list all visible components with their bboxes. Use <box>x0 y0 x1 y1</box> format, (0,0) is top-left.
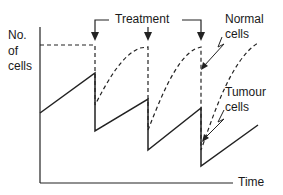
y-axis-label-line1: No. <box>8 28 27 42</box>
arrow-heads <box>91 32 205 41</box>
normal-cells-label-line2: cells <box>225 27 249 41</box>
normal-cells-pointer <box>204 37 224 66</box>
tumour-cells-pointer <box>205 110 224 138</box>
y-axis-label-line3: cells <box>8 59 32 73</box>
x-axis-label: Time <box>238 175 264 189</box>
y-axis-label-line2: of <box>8 44 18 58</box>
tumour-cells-label-line1: Tumour <box>225 85 266 99</box>
normal-cells-label-line1: Normal <box>225 12 264 26</box>
tumour-cells-label-line2: cells <box>225 100 249 114</box>
treatment-label: Treatment <box>115 12 169 26</box>
